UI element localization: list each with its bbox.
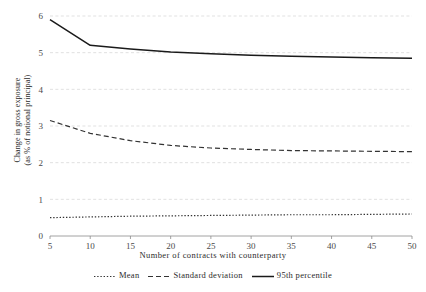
legend-item[interactable]: Standard deviation [148,270,242,280]
series-line [50,214,412,218]
legend-swatch-icon [252,272,274,279]
legend-label: 95th percentile [277,270,332,280]
legend-swatch-icon [148,272,170,279]
chart-legend: MeanStandard deviation95th percentile [0,270,426,280]
data-series-lines [50,20,412,218]
series-line [50,121,412,152]
legend-swatch-icon [94,272,116,279]
legend-item[interactable]: 95th percentile [252,270,332,280]
legend-label: Standard deviation [173,270,242,280]
x-axis-line [50,236,412,239]
gridlines [50,16,412,199]
legend-item[interactable]: Mean [94,270,140,280]
chart-figure: 0123456 5101520253035404550 Change in gr… [0,0,426,292]
y-axis-label-line2: (as % of notional principal) [23,75,33,166]
y-axis-label-line1: Change in gross exposure [13,75,23,166]
chart-plot-area: 0123456 5101520253035404550 [0,0,426,292]
x-axis-label: Number of contracts with counterparty [0,250,426,260]
legend-label: Mean [119,270,140,280]
y-axis-label: Change in gross exposure (as % of notion… [6,0,40,240]
